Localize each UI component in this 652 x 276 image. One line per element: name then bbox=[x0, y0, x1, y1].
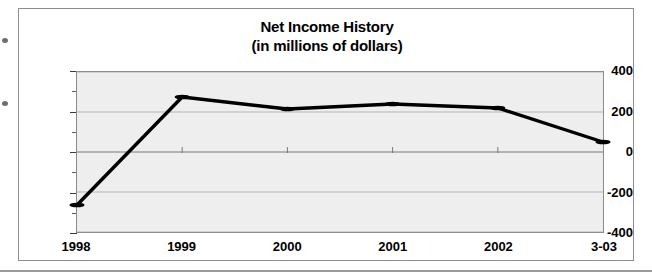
y-tick-major bbox=[70, 152, 76, 153]
data-point-2000 bbox=[280, 107, 295, 112]
y-tick-label--200: -200 bbox=[581, 186, 633, 199]
chart-title: Net Income History bbox=[19, 17, 635, 36]
x-tick-label-2002: 2002 bbox=[468, 240, 528, 254]
x-tick-label-3-03: 3-03 bbox=[574, 240, 634, 254]
data-point-2001 bbox=[385, 102, 400, 107]
y-tick-minor bbox=[72, 213, 76, 214]
y-tick-minor bbox=[72, 172, 76, 173]
data-markers bbox=[69, 95, 610, 208]
y-tick-label--400: -400 bbox=[581, 226, 633, 239]
y-tick-major bbox=[70, 112, 76, 113]
chart-screenshot: Net Income History (in millions of dolla… bbox=[0, 0, 652, 276]
chart-figure-frame: Net Income History (in millions of dolla… bbox=[18, 8, 634, 261]
y-tick-label-200: 200 bbox=[581, 105, 633, 118]
y-tick-minor bbox=[72, 91, 76, 92]
scan-artifact-upper bbox=[2, 38, 8, 43]
x-tick-label-2000: 2000 bbox=[257, 240, 317, 254]
data-point-1999 bbox=[175, 95, 190, 100]
page-bottom-rule bbox=[0, 270, 652, 272]
y-tick-major bbox=[70, 193, 76, 194]
y-tick-label-0: 0 bbox=[581, 145, 633, 158]
data-point-2002 bbox=[490, 106, 505, 111]
data-polyline bbox=[77, 97, 603, 205]
plot-area bbox=[76, 71, 604, 233]
data-point-3-03 bbox=[595, 140, 610, 145]
y-tick-major bbox=[70, 71, 76, 72]
plot-canvas bbox=[77, 72, 603, 232]
scan-artifact-lower bbox=[2, 101, 8, 106]
y-tick-major bbox=[70, 233, 76, 234]
data-point-1998 bbox=[69, 203, 84, 208]
y-tick-minor bbox=[72, 132, 76, 133]
data-line bbox=[77, 97, 603, 205]
gridlines bbox=[77, 72, 603, 232]
x-tick-label-2001: 2001 bbox=[363, 240, 423, 254]
y-tick-label-400: 400 bbox=[581, 64, 633, 77]
x-tick-label-1998: 1998 bbox=[46, 240, 106, 254]
x-tick-label-1999: 1999 bbox=[152, 240, 212, 254]
chart-subtitle: (in millions of dollars) bbox=[19, 36, 635, 55]
